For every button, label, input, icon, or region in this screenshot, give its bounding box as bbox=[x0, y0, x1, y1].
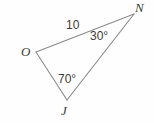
side-length-label-on: 10 bbox=[66, 19, 79, 31]
angle-measure-label-j: 70° bbox=[58, 73, 76, 85]
geometry-diagram: O N J 10 30° 70° bbox=[0, 0, 154, 123]
vertex-label-o: O bbox=[21, 45, 30, 58]
angle-measure-label-n: 30° bbox=[90, 30, 108, 42]
vertex-label-j: J bbox=[61, 104, 67, 117]
vertex-label-n: N bbox=[135, 1, 144, 14]
